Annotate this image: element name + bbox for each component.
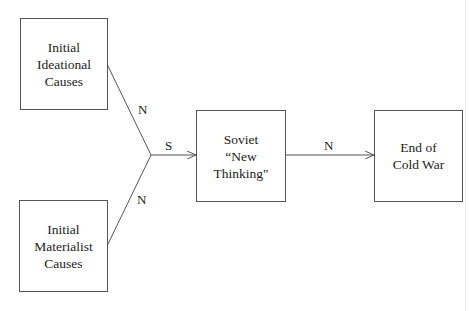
edge-label-soviet-end: N (324, 139, 333, 152)
node-text-line: Cold War (393, 156, 445, 173)
edge-label-ideational: N (138, 103, 147, 116)
edge-label-junction-soviet: S (165, 139, 172, 152)
node-text-line: Ideational (37, 56, 91, 73)
node-initial-materialist-causes: Initial Materialist Causes (19, 200, 108, 292)
node-soviet-new-thinking: Soviet “New Thinking" (196, 110, 286, 202)
node-initial-ideational-causes: Initial Ideational Causes (20, 18, 108, 110)
node-text-line: Causes (34, 255, 92, 272)
node-text-line: Materialist (34, 238, 92, 255)
node-text-line: Thinking" (213, 165, 268, 182)
edge-label-materialist: N (137, 193, 146, 206)
node-text-line: “New (213, 148, 268, 165)
node-text-line: End of (393, 139, 445, 156)
node-text-line: Soviet (213, 131, 268, 148)
node-text-line: Causes (37, 73, 91, 90)
node-end-of-cold-war: End of Cold War (374, 110, 463, 202)
node-text-line: Initial (37, 39, 91, 56)
node-text-line: Initial (34, 221, 92, 238)
